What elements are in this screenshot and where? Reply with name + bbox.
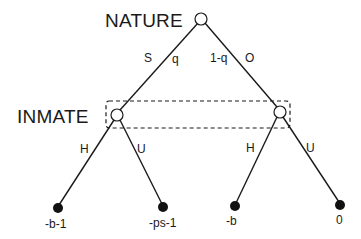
terminal-node-2 xyxy=(158,202,168,212)
edge-nature-to-inmate-right xyxy=(205,23,277,107)
move-label-U-right: U xyxy=(306,142,315,154)
edge-inmate-right-U xyxy=(283,117,339,202)
terminal-node-1 xyxy=(53,203,63,213)
move-label-S: S xyxy=(144,52,152,64)
edge-inmate-left-U xyxy=(120,120,162,204)
nature-label: NATURE xyxy=(105,11,183,30)
inmate-label: INMATE xyxy=(17,107,89,126)
payoff-1: -b-1 xyxy=(45,218,66,230)
prob-label-q: q xyxy=(172,53,179,65)
payoff-4: 0 xyxy=(336,214,343,226)
game-tree-diagram: NATURE INMATE S q 1-q O H U H U -b-1 -ps… xyxy=(0,0,361,239)
move-label-H-right: H xyxy=(246,142,255,154)
edge-inmate-left-H xyxy=(59,120,114,205)
prob-label-1-q: 1-q xyxy=(210,52,227,64)
information-set-box xyxy=(106,101,290,128)
edge-nature-to-inmate-left xyxy=(120,23,198,110)
nature-node xyxy=(195,13,207,25)
terminal-node-3 xyxy=(230,201,240,211)
payoff-2: -ps-1 xyxy=(149,217,176,229)
move-label-H-left: H xyxy=(80,143,89,155)
edge-inmate-right-H xyxy=(236,117,277,203)
inmate-node-right xyxy=(274,106,286,118)
inmate-node-left xyxy=(111,109,123,121)
payoff-3: -b xyxy=(226,215,237,227)
terminal-node-4 xyxy=(335,200,345,210)
move-label-U-left: U xyxy=(137,143,146,155)
move-label-O: O xyxy=(245,52,254,64)
